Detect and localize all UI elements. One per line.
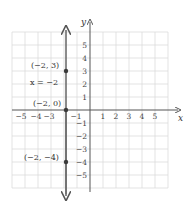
svg-text:4: 4 — [82, 54, 87, 63]
svg-text:−5: −5 — [76, 171, 87, 180]
label-point-neg2-3: (−2, 3) — [31, 61, 59, 70]
svg-text:−1: −1 — [76, 119, 87, 128]
svg-text:3: 3 — [127, 112, 132, 121]
x-axis-label: x — [178, 113, 183, 123]
point-neg2-neg4 — [64, 160, 68, 164]
svg-text:5: 5 — [153, 112, 158, 121]
svg-text:1: 1 — [101, 112, 106, 121]
y-axis-label: y — [80, 17, 87, 27]
svg-text:−4: −4 — [76, 158, 87, 167]
label-equation: x = −2 — [30, 78, 58, 87]
svg-text:5: 5 — [82, 41, 87, 50]
svg-text:3: 3 — [82, 67, 87, 76]
point-neg2-0 — [64, 108, 68, 112]
svg-text:−2: −2 — [76, 132, 87, 141]
label-point-neg2-neg4: (−2, −4) — [24, 153, 59, 162]
svg-text:2: 2 — [82, 80, 87, 89]
svg-text:−3: −3 — [43, 112, 54, 121]
svg-text:1: 1 — [82, 93, 87, 102]
label-point-neg2-0: (−2, 0) — [33, 99, 61, 108]
point-neg2-3 — [64, 69, 68, 73]
svg-text:−5: −5 — [15, 112, 26, 121]
svg-text:4: 4 — [140, 112, 145, 121]
svg-text:−4: −4 — [30, 112, 41, 121]
svg-text:−3: −3 — [76, 145, 87, 154]
coordinate-plane: x y −5 −4 −3 −1 1 2 3 4 5 5 4 3 2 1 −1 −… — [0, 0, 191, 205]
svg-text:2: 2 — [114, 112, 119, 121]
